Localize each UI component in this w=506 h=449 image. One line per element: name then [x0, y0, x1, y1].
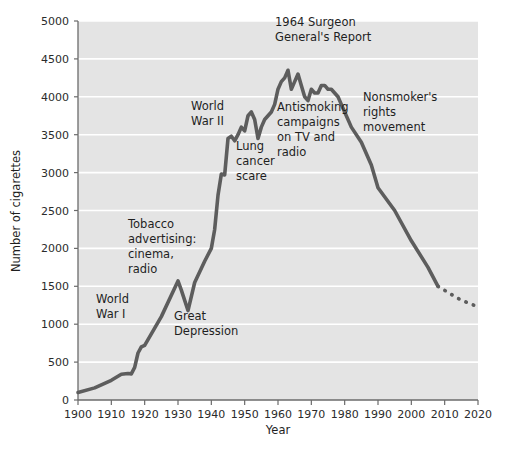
- y-tick-label-500: 500: [48, 356, 69, 369]
- y-tick-label-5000: 5000: [41, 15, 69, 28]
- x-tick-label-1930: 1930: [164, 408, 192, 421]
- x-tick-label-1900: 1900: [64, 408, 92, 421]
- x-tick-label-1990: 1990: [364, 408, 392, 421]
- y-tick-label-2500: 2500: [41, 205, 69, 218]
- x-tick-label-1970: 1970: [297, 408, 325, 421]
- y-axis-title: Number of cigarettes: [9, 150, 23, 272]
- y-tick-label-1000: 1000: [41, 318, 69, 331]
- annotation-world-war-ii: WorldWar II: [191, 99, 224, 128]
- x-tick-label-1920: 1920: [131, 408, 159, 421]
- x-axis-title: Year: [265, 423, 291, 437]
- y-tick-label-1500: 1500: [41, 280, 69, 293]
- x-tick-label-1980: 1980: [331, 408, 359, 421]
- y-tick-label-4500: 4500: [41, 53, 69, 66]
- x-tick-label-2020: 2020: [464, 408, 492, 421]
- x-tick-label-1960: 1960: [264, 408, 292, 421]
- y-tick-label-4000: 4000: [41, 91, 69, 104]
- y-tick-label-3500: 3500: [41, 129, 69, 142]
- y-tick-label-2000: 2000: [41, 242, 69, 255]
- y-tick-label-0: 0: [62, 394, 69, 407]
- x-tick-label-2000: 2000: [397, 408, 425, 421]
- x-tick-label-1910: 1910: [97, 408, 125, 421]
- cigarette-consumption-line-chart: 0500100015002000250030003500400045005000…: [0, 0, 506, 449]
- annotation-world-war-i: WorldWar I: [96, 292, 129, 321]
- x-tick-label-1950: 1950: [231, 408, 259, 421]
- y-tick-label-3000: 3000: [41, 167, 69, 180]
- x-tick-label-2010: 2010: [431, 408, 459, 421]
- x-tick-label-1940: 1940: [197, 408, 225, 421]
- chart-root: 0500100015002000250030003500400045005000…: [0, 0, 506, 449]
